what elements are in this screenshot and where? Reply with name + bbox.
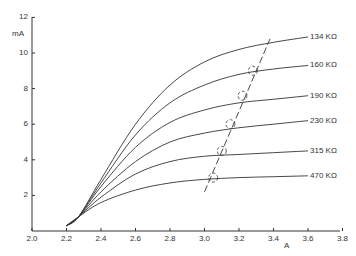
y-tick-label: 2 bbox=[0, 191, 28, 199]
curve-label: 315 KΩ bbox=[310, 147, 337, 155]
x-tick-label: 2.6 bbox=[130, 235, 141, 243]
x-tick-label: 2.0 bbox=[26, 235, 37, 243]
x-tick-label: 3.8 bbox=[337, 235, 348, 243]
x-tick-label: 2.2 bbox=[61, 235, 72, 243]
x-tick-label: 3.0 bbox=[199, 235, 210, 243]
y-tick-label: 6 bbox=[0, 120, 28, 128]
curve-line bbox=[67, 37, 309, 226]
dashed-circle-marker bbox=[209, 173, 218, 182]
dashed-load-line bbox=[205, 39, 271, 192]
chart-plot bbox=[0, 0, 356, 256]
y-tick-label: 8 bbox=[0, 85, 28, 93]
curve-line bbox=[67, 96, 309, 226]
curve-line bbox=[67, 151, 309, 226]
curve-label: 160 KΩ bbox=[310, 61, 337, 69]
curve-label: 230 KΩ bbox=[310, 117, 337, 125]
x-axis-title: A bbox=[284, 242, 289, 250]
curve-line bbox=[67, 121, 309, 226]
x-tick-label: 2.8 bbox=[164, 235, 175, 243]
y-tick-label: 10 bbox=[0, 49, 28, 57]
x-tick-label: 3.2 bbox=[233, 235, 244, 243]
y-tick-label: 12 bbox=[0, 13, 28, 21]
curve-line bbox=[67, 176, 309, 226]
x-tick-label: 3.6 bbox=[302, 235, 313, 243]
curve-label: 190 KΩ bbox=[310, 92, 337, 100]
y-tick-label: 4 bbox=[0, 156, 28, 164]
curve-label: 470 KΩ bbox=[310, 172, 337, 180]
x-tick-label: 2.4 bbox=[95, 235, 106, 243]
x-tick-label: 3.4 bbox=[268, 235, 279, 243]
y-axis-title: mA bbox=[12, 30, 24, 38]
curve-label: 134 KΩ bbox=[310, 33, 337, 41]
